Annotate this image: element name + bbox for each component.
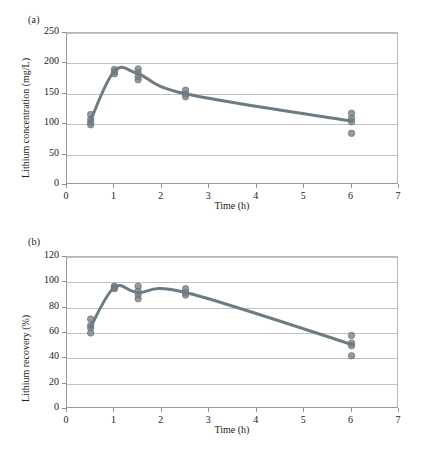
x-tick-label: 4 <box>246 414 266 425</box>
x-tick-label: 7 <box>388 190 408 201</box>
panel-b-plot-area <box>66 256 398 408</box>
y-tick-label: 100 <box>44 274 59 285</box>
data-point-marker <box>111 71 117 77</box>
data-point-marker <box>135 77 141 83</box>
y-tick-mark <box>62 93 66 94</box>
x-tick-mark <box>351 408 352 412</box>
x-tick-label: 0 <box>56 414 76 425</box>
data-point-marker <box>348 342 354 348</box>
x-tick-label: 5 <box>293 190 313 201</box>
panel-b-x-axis-title: Time (h) <box>66 424 398 435</box>
x-tick-mark <box>161 184 162 188</box>
series-line <box>91 67 352 121</box>
x-tick-mark <box>208 408 209 412</box>
x-tick-mark <box>398 408 399 412</box>
x-tick-mark <box>113 408 114 412</box>
y-tick-label: 150 <box>44 86 59 97</box>
x-tick-label: 1 <box>103 414 123 425</box>
y-tick-label: 40 <box>49 350 59 361</box>
x-tick-label: 3 <box>198 190 218 201</box>
x-tick-label: 1 <box>103 190 123 201</box>
data-point-marker <box>348 332 354 338</box>
y-tick-label: 0 <box>54 401 59 412</box>
x-tick-mark <box>113 184 114 188</box>
x-tick-mark <box>398 184 399 188</box>
y-tick-mark <box>62 383 66 384</box>
x-tick-mark <box>351 184 352 188</box>
data-point-marker <box>135 296 141 302</box>
panel-a-plot-area <box>66 32 398 184</box>
y-tick-mark <box>62 154 66 155</box>
x-tick-mark <box>303 184 304 188</box>
y-tick-mark <box>62 123 66 124</box>
data-point-marker <box>348 119 354 125</box>
panel-a-y-axis-title: Lithium concentration (mg/L) <box>20 58 31 178</box>
x-tick-mark <box>303 408 304 412</box>
data-point-marker <box>111 285 117 291</box>
x-tick-mark <box>256 184 257 188</box>
y-tick-label: 20 <box>49 376 59 387</box>
figure-container: (a) Lithium concentration (mg/L) Time (h… <box>0 0 424 468</box>
y-tick-label: 120 <box>44 249 59 260</box>
y-tick-label: 50 <box>49 147 59 158</box>
x-tick-label: 6 <box>341 414 361 425</box>
x-tick-label: 3 <box>198 414 218 425</box>
data-series-layer <box>67 257 399 409</box>
data-point-marker <box>182 292 188 298</box>
data-point-marker <box>182 94 188 100</box>
y-tick-mark <box>62 256 66 257</box>
panel-a-x-axis-title: Time (h) <box>66 200 398 211</box>
data-point-marker <box>88 316 94 322</box>
x-tick-mark <box>256 408 257 412</box>
y-tick-label: 80 <box>49 300 59 311</box>
x-tick-label: 5 <box>293 414 313 425</box>
x-tick-label: 7 <box>388 414 408 425</box>
x-tick-mark <box>208 184 209 188</box>
data-series-layer <box>67 33 399 185</box>
panel-b: (b) Lithium recovery (%) Time (h) 020406… <box>0 230 424 468</box>
x-tick-mark <box>161 408 162 412</box>
y-tick-label: 100 <box>44 116 59 127</box>
y-tick-mark <box>62 62 66 63</box>
panel-a-label: (a) <box>28 14 40 25</box>
y-tick-label: 0 <box>54 177 59 188</box>
data-point-marker <box>88 122 94 128</box>
panel-a: (a) Lithium concentration (mg/L) Time (h… <box>0 0 424 228</box>
y-tick-label: 60 <box>49 325 59 336</box>
x-tick-label: 4 <box>246 190 266 201</box>
x-tick-label: 2 <box>151 190 171 201</box>
y-tick-label: 200 <box>44 55 59 66</box>
y-tick-mark <box>62 332 66 333</box>
data-point-marker <box>88 330 94 336</box>
y-tick-mark <box>62 307 66 308</box>
y-tick-label: 250 <box>44 25 59 36</box>
y-tick-mark <box>62 281 66 282</box>
data-point-marker <box>348 130 354 136</box>
x-tick-label: 6 <box>341 190 361 201</box>
y-tick-mark <box>62 32 66 33</box>
y-tick-mark <box>62 357 66 358</box>
x-tick-mark <box>66 408 67 412</box>
x-tick-label: 0 <box>56 190 76 201</box>
panel-b-label: (b) <box>28 236 40 247</box>
series-line <box>91 285 352 344</box>
panel-b-y-axis-title: Lithium recovery (%) <box>20 315 31 402</box>
x-tick-label: 2 <box>151 414 171 425</box>
data-point-marker <box>348 353 354 359</box>
x-tick-mark <box>66 184 67 188</box>
